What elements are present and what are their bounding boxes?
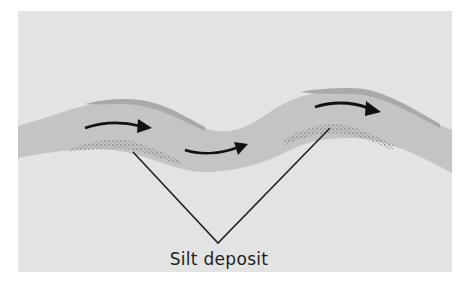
silt-deposit-label: Silt deposit (163, 249, 275, 269)
river-channel (18, 90, 452, 173)
river-meander-diagram (0, 0, 462, 291)
